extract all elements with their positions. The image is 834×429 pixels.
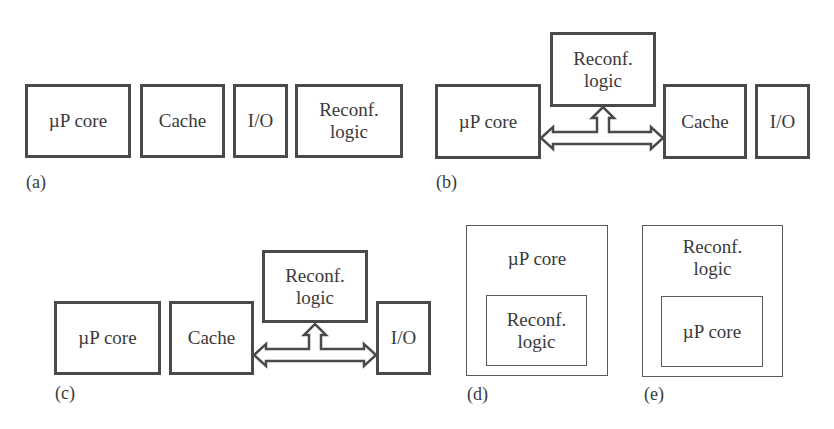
d-reconf-logic-inner-block: Reconf. logic bbox=[486, 295, 587, 366]
block-label: Reconf. logic bbox=[507, 309, 567, 353]
e-up-core-inner-block: µP core bbox=[661, 296, 763, 367]
block-label: Reconf. logic bbox=[683, 236, 743, 280]
d-label: (d) bbox=[467, 384, 488, 405]
e-label: (e) bbox=[644, 384, 664, 405]
c-label: (c) bbox=[55, 383, 75, 404]
block-label: µP core bbox=[683, 321, 741, 343]
block-label: µP core bbox=[508, 248, 566, 270]
